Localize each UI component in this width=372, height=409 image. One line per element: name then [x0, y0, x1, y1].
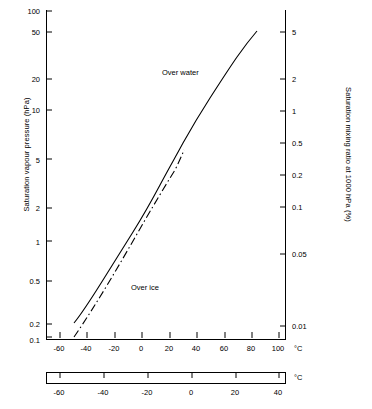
- left-axis-ticks: [47, 11, 52, 337]
- y-tick-label-10: 10: [10, 106, 40, 115]
- y-tick-label-5: 5: [10, 156, 40, 165]
- secondary-x-tick-label-40: 40: [265, 388, 291, 397]
- secondary-x-tick-label-20: 20: [222, 388, 248, 397]
- x-tick-label-60: 60: [211, 344, 237, 353]
- secondary-x-tick-label--40: -40: [90, 388, 116, 397]
- x-axis-unit-label: °C: [294, 344, 302, 353]
- x-tick-label-100: 100: [265, 344, 291, 353]
- x-tick-label--40: -40: [73, 344, 99, 353]
- x-tick-label-80: 80: [238, 344, 264, 353]
- x-tick-label-0: 0: [128, 344, 154, 353]
- x-axis-ticks: [60, 332, 279, 338]
- y-tick-label-50: 50: [10, 28, 40, 37]
- secondary-x-tick-label-0: 0: [178, 388, 204, 397]
- x-tick-label--20: -20: [101, 344, 127, 353]
- annotation-over-ice: Over ice: [131, 283, 159, 292]
- y2-tick-label-0.01: 0.01: [292, 322, 307, 331]
- chart-figure: Saturation vapour pressure (hPa) Saturat…: [0, 0, 372, 409]
- x-tick-label--60: -60: [46, 344, 72, 353]
- secondary-axis: [46, 372, 286, 384]
- y-tick-label-2: 2: [10, 204, 40, 213]
- y-tick-label-0.1: 0.1: [10, 336, 40, 345]
- right-axis-ticks: [280, 32, 285, 326]
- y-tick-label-20: 20: [10, 75, 40, 84]
- y-axis-title-right: Saturation mixing ratio at 1000 hPa (%): [344, 75, 353, 235]
- secondary-axis-ticks: [60, 373, 279, 378]
- secondary-axis-unit-label: °C: [294, 373, 302, 382]
- secondary-axis-svg: [47, 373, 285, 383]
- y2-tick-label-1: 1: [292, 107, 296, 116]
- secondary-x-tick-label--20: -20: [134, 388, 160, 397]
- y-tick-label-0.5: 0.5: [10, 277, 40, 286]
- curve-over-ice: [74, 150, 184, 337]
- y2-tick-label-0.05: 0.05: [292, 250, 307, 259]
- y2-tick-label-2: 2: [292, 75, 296, 84]
- y-tick-label-100: 100: [10, 7, 40, 16]
- y-tick-label-0.2: 0.2: [10, 320, 40, 329]
- annotation-over-water: Over water: [162, 68, 199, 77]
- x-tick-label-20: 20: [156, 344, 182, 353]
- plot-area: Over water Over ice: [46, 10, 286, 340]
- y2-tick-label-0.1: 0.1: [292, 203, 302, 212]
- secondary-x-tick-label--60: -60: [46, 388, 72, 397]
- x-tick-label-40: 40: [183, 344, 209, 353]
- plot-svg: [47, 10, 285, 338]
- y-tick-label-1: 1: [10, 238, 40, 247]
- y2-tick-label-0.5: 0.5: [292, 139, 302, 148]
- y2-tick-label-5: 5: [292, 28, 296, 37]
- y2-tick-label-0.2: 0.2: [292, 171, 302, 180]
